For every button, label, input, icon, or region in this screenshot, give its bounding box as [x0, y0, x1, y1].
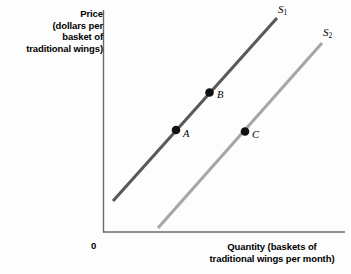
- y-axis-label-line-1: Price: [0, 8, 103, 20]
- point-marker-c: [241, 127, 250, 136]
- curve-label-s1-letter: S: [278, 3, 284, 15]
- curve-label-s2: S2: [323, 26, 332, 38]
- point-label-c: C: [252, 129, 259, 140]
- origin-label: 0: [91, 240, 96, 251]
- point-marker-b: [205, 88, 214, 97]
- x-axis-label: Quantity (baskets of traditional wings p…: [196, 241, 348, 264]
- y-axis-label-line-2: (dollars per: [0, 20, 103, 32]
- curve-label-s1: S1: [278, 3, 287, 15]
- y-axis-label-line-4: traditional wings): [0, 43, 103, 55]
- point-marker-a: [172, 126, 181, 135]
- curve-label-s2-subscript: 2: [329, 31, 333, 40]
- point-label-b: B: [217, 89, 223, 100]
- y-axis-label-line-3: basket of: [0, 31, 103, 43]
- x-axis-label-line-2: traditional wings per month): [196, 253, 348, 265]
- curve-label-s1-subscript: 1: [284, 8, 288, 17]
- curve-label-s2-letter: S: [323, 26, 329, 38]
- point-label-a: A: [183, 128, 189, 139]
- x-axis-label-line-1: Quantity (baskets of: [196, 241, 348, 253]
- y-axis-label: Price (dollars per basket of traditional…: [0, 8, 103, 54]
- supply-curve-s1: [113, 18, 277, 201]
- supply-curve-shift-figure: Price (dollars per basket of traditional…: [0, 0, 351, 274]
